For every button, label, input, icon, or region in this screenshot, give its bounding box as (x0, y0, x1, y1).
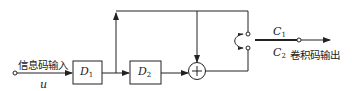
diagram-wires (0, 0, 352, 91)
convolutional-encoder-diagram: 信息码输入 u D1 D2 C1 C2 卷积码输出 (0, 0, 352, 91)
input-symbol: u (40, 78, 47, 91)
c2-label: C2 (273, 46, 286, 60)
output-terminal (297, 38, 301, 42)
adder-to-c2-wire (206, 50, 249, 71)
d2-label: D2 (138, 65, 151, 79)
c2-contact (246, 46, 250, 50)
commutator-arc (235, 34, 243, 48)
output-label: 卷积码输出 (290, 47, 340, 62)
c1-contact (246, 32, 250, 36)
c1-label: C1 (273, 25, 286, 39)
input-terminal (13, 71, 17, 75)
d1-label: D1 (80, 65, 93, 79)
input-label: 信息码输入 (18, 57, 68, 72)
